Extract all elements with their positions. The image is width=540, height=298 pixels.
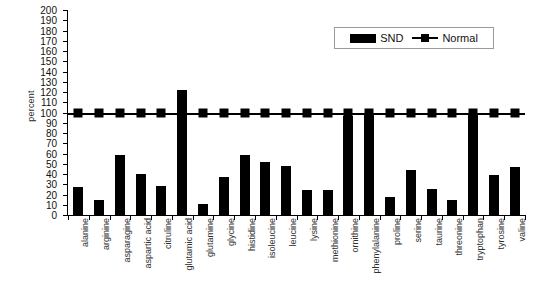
line-marker: [136, 108, 145, 117]
x-axis-tick-label: aspartic acid: [144, 218, 153, 269]
y-axis-tick: 140: [63, 72, 68, 73]
bar: [302, 190, 312, 215]
bar: [115, 155, 125, 215]
y-axis-tick: 40: [63, 174, 68, 175]
line-marker: [302, 108, 311, 117]
chart-figure: percent 01020304050607080901001101201301…: [0, 0, 540, 298]
y-axis-tick: 70: [63, 143, 68, 144]
line-marker: [240, 108, 249, 117]
bar: [240, 155, 250, 215]
x-axis-tick-label: citruline: [164, 218, 173, 249]
y-axis-tick-label: 100: [40, 109, 57, 119]
y-axis-tick-label: 120: [40, 88, 57, 98]
line-marker: [157, 108, 166, 117]
x-axis-tick-label: serine: [414, 218, 423, 243]
y-axis-tick: 50: [63, 164, 68, 165]
bar: [260, 162, 270, 215]
bar: [427, 189, 437, 215]
line-marker: [282, 108, 291, 117]
chart-legend: SND Normal: [334, 27, 494, 49]
y-axis-tick-label: 140: [40, 68, 57, 78]
y-axis-tick-label: 130: [40, 78, 57, 88]
y-axis-tick-label: 110: [41, 98, 57, 108]
line-marker: [178, 108, 187, 117]
x-axis-tick-label: methionine: [331, 218, 340, 262]
y-axis-tick: 20: [63, 195, 68, 196]
x-axis-tick-label: asparagine: [123, 218, 132, 263]
bar: [281, 166, 291, 215]
x-axis-tick-label: phenylalanine: [372, 218, 381, 274]
x-axis-tick-label: valine: [518, 218, 527, 242]
x-axis-tick-label: arginine: [102, 218, 111, 250]
line-marker: [344, 108, 353, 117]
legend-label-snd: SND: [380, 32, 403, 44]
y-axis-tick-label: 160: [40, 47, 57, 57]
x-axis-tick-label: glutamic acid: [185, 218, 194, 271]
y-axis-tick-label: 80: [46, 129, 57, 139]
y-axis-tick: 180: [63, 31, 68, 32]
line-marker: [219, 108, 228, 117]
y-axis-tick-label: 20: [46, 191, 57, 201]
x-axis-tick-label: proline: [393, 218, 402, 245]
x-axis-tick-label: taurine: [435, 218, 444, 246]
line-marker: [365, 108, 374, 117]
x-axis-tick-label: leucine: [289, 218, 298, 247]
y-axis-tick: 60: [63, 154, 68, 155]
x-axis-tick-label: threonine: [455, 218, 464, 256]
bar: [385, 197, 395, 215]
x-axis-tick-label: glycine: [227, 218, 236, 246]
x-axis-tick-labels: alaninearginineasparagineaspartic acidci…: [67, 218, 525, 298]
y-axis-tick-label: 200: [40, 6, 57, 16]
bar: [510, 167, 520, 215]
x-axis-tick-label: tyrosine: [497, 218, 506, 250]
bar: [489, 175, 499, 215]
y-axis-tick: 30: [63, 184, 68, 185]
line-marker: [406, 108, 415, 117]
line-marker: [199, 108, 208, 117]
legend-label-normal: Normal: [442, 32, 477, 44]
line-marker: [115, 108, 124, 117]
y-axis-tick: 10: [63, 205, 68, 206]
y-axis-tick: 110: [63, 102, 68, 103]
y-axis-tick-label: 180: [40, 27, 57, 37]
y-axis-tick-label: 90: [46, 119, 57, 129]
y-axis-title: percent: [26, 76, 36, 136]
line-marker: [427, 108, 436, 117]
line-marker: [489, 108, 498, 117]
x-axis-tick-label: ornithine: [351, 218, 360, 253]
line-marker: [74, 108, 83, 117]
y-axis-tick: 80: [63, 133, 68, 134]
y-axis-tick-label: 50: [46, 160, 57, 170]
legend-bar-swatch-icon: [350, 34, 376, 43]
legend-item-snd: SND: [350, 32, 403, 44]
bar: [447, 200, 457, 215]
y-axis-tick-label: 60: [46, 150, 57, 160]
x-axis-tick-label: tryptophan: [476, 218, 485, 261]
y-axis-tick-label: 10: [46, 201, 57, 211]
y-axis-tick: 170: [63, 41, 68, 42]
bar: [198, 204, 208, 215]
legend-line-marker-swatch-icon: [412, 34, 438, 43]
x-axis-tick-label: alanine: [81, 218, 90, 247]
bar: [136, 174, 146, 215]
bar: [94, 200, 104, 215]
y-axis-tick-label: 190: [40, 16, 57, 26]
y-axis-tick-label: 70: [46, 139, 57, 149]
x-axis-tick-label: histidine: [248, 218, 257, 251]
line-marker: [95, 108, 104, 117]
bar: [406, 170, 416, 215]
y-axis-tick-label: 170: [40, 37, 57, 47]
line-marker: [469, 108, 478, 117]
y-axis-tick-label: 150: [40, 57, 57, 67]
y-axis-tick: 90: [63, 123, 68, 124]
line-marker: [510, 108, 519, 117]
line-marker: [261, 108, 270, 117]
y-axis-tick-label: 0: [51, 211, 57, 221]
bar: [156, 186, 166, 215]
line-marker: [385, 108, 394, 117]
bar: [364, 113, 374, 216]
bar: [73, 187, 83, 215]
y-axis-tick: 120: [63, 92, 68, 93]
y-axis-tick: 160: [63, 51, 68, 52]
line-marker: [448, 108, 457, 117]
